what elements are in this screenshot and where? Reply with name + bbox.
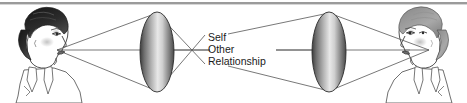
label-self: Self (208, 31, 226, 43)
left-person-profile (16, 7, 82, 103)
label-other: Other (208, 43, 235, 55)
left-lens (140, 12, 174, 92)
perception-lens-diagram: Self Other Relationship (0, 0, 467, 103)
right-person-profile (386, 7, 452, 103)
label-relationship: Relationship (208, 55, 266, 67)
right-lens (312, 12, 346, 92)
left-ray-bundle (57, 13, 210, 91)
top-divider-rule (0, 2, 467, 5)
